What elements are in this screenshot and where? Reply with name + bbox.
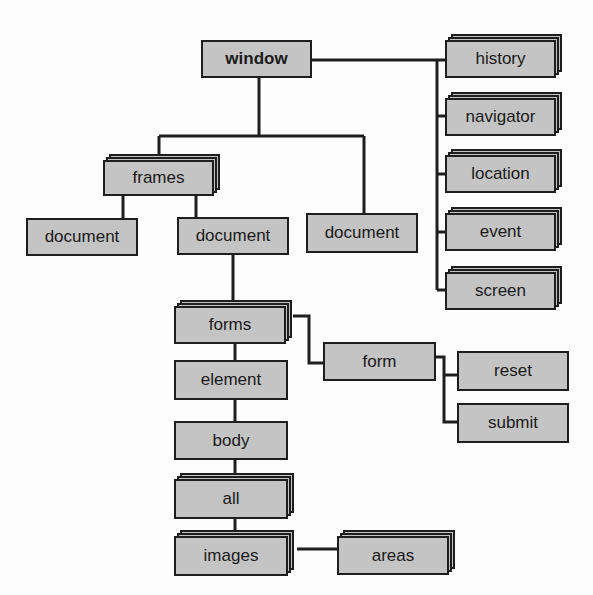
node-label: navigator — [445, 98, 556, 136]
node-images: images — [174, 536, 288, 576]
node-label: document — [306, 213, 418, 253]
node-label: document — [26, 218, 138, 256]
node-label: forms — [174, 306, 286, 344]
node-label: frames — [103, 160, 214, 196]
node-element: element — [174, 360, 288, 400]
node-event: event — [445, 213, 556, 251]
node-body: body — [174, 421, 288, 460]
node-label: element — [174, 360, 288, 400]
node-label: reset — [457, 351, 569, 391]
node-history: history — [445, 40, 556, 78]
node-label: form — [323, 342, 436, 381]
node-label: screen — [445, 272, 556, 310]
node-label: submit — [457, 403, 569, 443]
node-label: body — [174, 421, 288, 460]
node-form: form — [323, 342, 436, 381]
node-window: window — [201, 40, 312, 78]
node-document-right: document — [306, 213, 418, 253]
node-screen: screen — [445, 272, 556, 310]
node-location: location — [445, 155, 556, 193]
node-navigator: navigator — [445, 98, 556, 136]
node-label: all — [174, 479, 288, 519]
node-all: all — [174, 479, 288, 519]
node-label: areas — [337, 536, 449, 575]
node-forms: forms — [174, 306, 286, 344]
node-document-left: document — [26, 218, 138, 256]
node-label: document — [177, 217, 289, 255]
node-document-mid: document — [177, 217, 289, 255]
node-label: history — [445, 40, 556, 78]
node-areas: areas — [337, 536, 449, 575]
node-frames: frames — [103, 160, 214, 196]
node-label: location — [445, 155, 556, 193]
node-label: images — [174, 536, 288, 576]
node-submit: submit — [457, 403, 569, 443]
object-hierarchy-diagram: window history navigator location event … — [0, 0, 593, 595]
node-label: event — [445, 213, 556, 251]
node-label: window — [201, 40, 312, 78]
node-reset: reset — [457, 351, 569, 391]
